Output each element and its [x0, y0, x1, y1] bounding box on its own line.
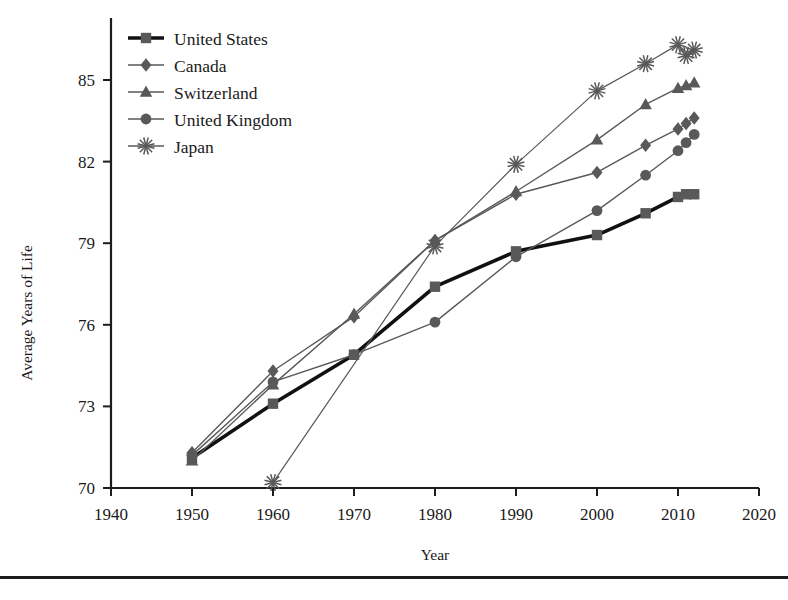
data-point-marker: [640, 208, 650, 218]
data-point-marker: [640, 139, 651, 153]
x-axis-title: Year: [421, 546, 450, 563]
data-point-marker: [689, 129, 700, 140]
y-tick-label: 76: [78, 316, 95, 335]
data-point-marker: [268, 377, 279, 388]
legend-label-japan: Japan: [174, 137, 214, 157]
series-line: [192, 83, 694, 461]
data-point-marker: [511, 251, 522, 262]
figure-bottom-rule: [0, 576, 788, 579]
data-point-marker: [639, 98, 652, 109]
legend-label-switzerland: Switzerland: [174, 83, 258, 103]
series-united-states: [187, 189, 700, 463]
data-point-marker: [689, 189, 699, 199]
legend-label-canada: Canada: [174, 56, 227, 76]
legend-label-united-states: United States: [174, 29, 268, 49]
data-point-marker: [268, 398, 278, 408]
x-tick-label: 1960: [256, 505, 290, 524]
x-tick-label: 1940: [94, 505, 128, 524]
chart-plot-area: 1940195019601970198019902000201020207073…: [0, 0, 788, 600]
legend-label-united-kingdom: United Kingdom: [174, 110, 293, 130]
data-point-marker: [591, 133, 604, 144]
series-line: [192, 118, 694, 453]
life-expectancy-chart-figure: 1940195019601970198019902000201020207073…: [0, 0, 788, 600]
data-point-marker: [510, 185, 523, 196]
x-tick-label: 1970: [337, 505, 371, 524]
data-point-marker: [688, 76, 701, 87]
legend-marker-diamond: [141, 58, 152, 72]
data-point-marker: [430, 317, 441, 328]
data-point-marker: [187, 450, 198, 461]
series-canada: [187, 111, 700, 459]
y-tick-label: 79: [78, 234, 95, 253]
x-tick-label: 1990: [499, 505, 533, 524]
data-point-marker: [592, 166, 603, 180]
data-point-marker: [673, 145, 684, 156]
data-point-marker: [430, 282, 440, 292]
legend-marker-circle: [141, 114, 152, 125]
series-line: [192, 194, 694, 458]
x-tick-label: 1950: [175, 505, 209, 524]
y-tick-label: 70: [78, 479, 95, 498]
legend-marker-square: [141, 33, 151, 43]
data-point-marker: [640, 170, 651, 181]
y-axis-title: Average Years of Life: [18, 245, 35, 381]
x-tick-label: 1980: [418, 505, 452, 524]
x-tick-label: 2020: [742, 505, 776, 524]
y-tick-label: 73: [78, 397, 95, 416]
legend-marker-triangle: [140, 86, 153, 97]
data-point-marker: [592, 205, 603, 216]
chart-legend: United StatesCanadaSwitzerlandUnited Kin…: [128, 29, 293, 157]
series-switzerland: [186, 76, 701, 465]
x-tick-label: 2010: [661, 505, 695, 524]
y-tick-label: 82: [78, 153, 95, 172]
data-point-marker: [681, 137, 692, 148]
y-tick-label: 85: [78, 71, 95, 90]
x-tick-label: 2000: [580, 505, 614, 524]
data-point-marker: [592, 230, 602, 240]
